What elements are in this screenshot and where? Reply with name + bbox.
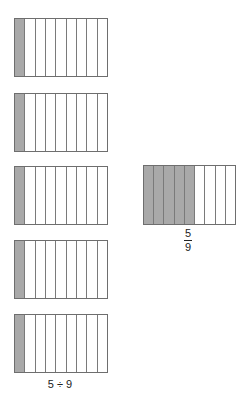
division-label: 5 ÷ 9 [40, 378, 80, 390]
shaded-part [15, 241, 25, 298]
unshaded-part [25, 241, 35, 298]
unshaded-part [46, 19, 56, 76]
unshaded-part [77, 241, 87, 298]
unshaded-part [25, 167, 35, 224]
unshaded-part [98, 94, 107, 151]
shaded-part [185, 166, 195, 224]
unshaded-part [25, 315, 35, 372]
fraction-bar-3 [14, 166, 108, 225]
unshaded-part [36, 315, 46, 372]
unshaded-part [67, 94, 77, 151]
shaded-part [15, 19, 25, 76]
unshaded-part [56, 94, 66, 151]
unshaded-part [226, 166, 235, 224]
unshaded-part [77, 94, 87, 151]
unshaded-part [36, 94, 46, 151]
unshaded-part [25, 94, 35, 151]
fraction-bar-2 [14, 93, 108, 152]
unshaded-part [46, 315, 56, 372]
unshaded-part [98, 19, 107, 76]
shaded-part [164, 166, 174, 224]
unshaded-part [67, 241, 77, 298]
unshaded-part [46, 167, 56, 224]
unshaded-part [98, 167, 107, 224]
fraction-bar-5 [14, 314, 108, 373]
shaded-part [15, 94, 25, 151]
unshaded-part [87, 94, 97, 151]
unshaded-part [205, 166, 215, 224]
unshaded-part [67, 315, 77, 372]
shaded-part [175, 166, 185, 224]
fraction-label: 5 9 [178, 228, 198, 253]
unshaded-part [67, 19, 77, 76]
unshaded-part [67, 167, 77, 224]
unshaded-part [36, 19, 46, 76]
unshaded-part [87, 19, 97, 76]
unshaded-part [216, 166, 226, 224]
unshaded-part [56, 315, 66, 372]
shaded-part [15, 167, 25, 224]
unshaded-part [56, 241, 66, 298]
unshaded-part [25, 19, 35, 76]
unshaded-part [77, 315, 87, 372]
unshaded-part [46, 241, 56, 298]
unshaded-part [36, 241, 46, 298]
combined-fraction-bar [143, 165, 236, 225]
unshaded-part [56, 19, 66, 76]
unshaded-part [98, 315, 107, 372]
unshaded-part [36, 167, 46, 224]
unshaded-part [195, 166, 205, 224]
unshaded-part [98, 241, 107, 298]
unshaded-part [87, 241, 97, 298]
shaded-part [154, 166, 164, 224]
unshaded-part [77, 167, 87, 224]
fraction-denominator: 9 [178, 242, 198, 253]
shaded-part [15, 315, 25, 372]
shaded-part [144, 166, 154, 224]
unshaded-part [56, 167, 66, 224]
fraction-numerator: 5 [178, 228, 198, 239]
unshaded-part [77, 19, 87, 76]
unshaded-part [87, 315, 97, 372]
fraction-bar-4 [14, 240, 108, 299]
fraction-bar-1 [14, 18, 108, 77]
unshaded-part [87, 167, 97, 224]
unshaded-part [46, 94, 56, 151]
